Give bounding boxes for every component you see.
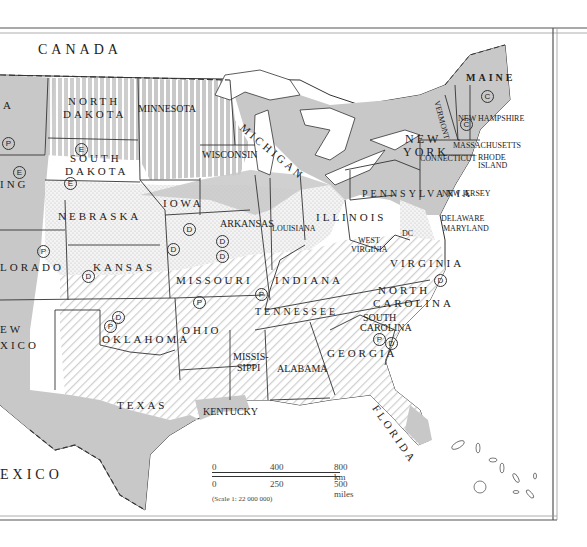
label-south-carolina-2: CAROLINA <box>360 323 412 333</box>
label-colorado: LORADO <box>0 262 64 273</box>
scale-km-400: 400 <box>270 462 284 472</box>
label-wyoming: ING <box>0 179 29 190</box>
label-west-virginia-2: VIRGINIA <box>351 246 387 254</box>
label-nebraska: NEBRASKA <box>58 211 141 222</box>
label-louisiana: KENTUCKY <box>203 407 258 417</box>
marker-d: D <box>167 243 180 256</box>
label-texas: TEXAS <box>117 400 167 411</box>
label-tennessee: TENNESSEE <box>255 307 338 317</box>
marker-d: D <box>216 235 229 248</box>
label-massachusetts: MASSACHUSETTS <box>453 142 521 150</box>
marker-e: E <box>64 177 77 190</box>
label-iowa: IOWA <box>163 198 204 209</box>
marker-c: C <box>460 118 473 131</box>
label-dc: DC <box>402 230 413 238</box>
marker-d: D <box>434 274 447 287</box>
marker-e: E <box>13 166 26 179</box>
label-oklahoma: OKLAHOMA <box>102 334 190 345</box>
marker-d: D <box>216 250 229 263</box>
label-wisconsin: WISCONSIN <box>202 150 258 160</box>
label-kentucky: INDIANA <box>275 275 343 286</box>
marker-c: C <box>481 90 494 103</box>
label-kansas: KANSAS <box>93 262 155 273</box>
caribbean-islands <box>450 439 536 499</box>
label-mississippi-2: SIPPI <box>237 363 260 373</box>
marker-e: E <box>75 143 88 156</box>
label-indiana: LOUISIANA <box>272 225 316 233</box>
label-missouri: MISSOURI <box>176 275 253 286</box>
marker-d: D <box>183 223 196 236</box>
label-new-mexico-1: EW <box>0 324 23 335</box>
label-new-york-1: NEW <box>405 133 441 145</box>
marker-p: P <box>37 245 50 258</box>
label-south-dakota-2: DAKOTA <box>65 166 129 177</box>
label-virginia: VIRGINIA <box>390 258 464 269</box>
label-maryland: MARYLAND <box>443 225 489 233</box>
label-north-dakota-1: NORTH <box>68 96 120 107</box>
marker-p: P <box>104 320 117 333</box>
label-ohio: ILLINOIS <box>316 212 386 223</box>
scale-ratio: (Scale 1: 22 000 000) <box>212 495 272 503</box>
label-arkansas: OHIO <box>182 325 222 336</box>
marker-p: P <box>2 137 15 150</box>
label-georgia: GEORGIA <box>327 348 398 359</box>
scale-mi-0: 0 <box>212 479 217 489</box>
label-mississippi-1: MISSIS- <box>233 352 269 362</box>
marker-d: D <box>385 337 398 350</box>
label-canada: CANADA <box>38 43 122 57</box>
label-new-mexico-2: XICO <box>0 340 39 351</box>
scale-km-0: 0 <box>212 462 217 472</box>
label-north-carolina-1: NORTH <box>378 285 430 296</box>
label-alabama: ALABAMA <box>277 364 328 374</box>
scale-line <box>212 472 340 477</box>
label-minnesota: MINNESOTA <box>138 104 196 114</box>
label-new-jersey: NEW JERSEY <box>442 190 491 198</box>
label-mexico: EXICO <box>0 468 63 482</box>
map-figure: CANADA EXICO A NORTH DAKOTA SOUTH DAKOTA… <box>0 0 587 547</box>
label-illinois: ARKANSAS <box>220 219 274 229</box>
scale-mi-500: 500 miles <box>334 479 354 499</box>
marker-p: P <box>255 288 268 301</box>
label-connecticut: CONNECTICUT <box>420 155 476 163</box>
marker-p: P <box>193 296 206 309</box>
scale-mi-250: 250 <box>270 479 284 489</box>
label-montana: A <box>3 100 14 111</box>
label-rhode-island-2: ISLAND <box>478 162 507 170</box>
label-west-virginia-1: WEST <box>358 237 380 245</box>
label-north-dakota-2: DAKOTA <box>63 109 127 120</box>
marker-d: D <box>82 270 95 283</box>
label-maine: MAINE <box>466 73 515 83</box>
label-delaware: DELAWARE <box>441 215 484 223</box>
label-north-carolina-2: CAROLINA <box>373 298 454 309</box>
lake-superior <box>215 70 300 100</box>
